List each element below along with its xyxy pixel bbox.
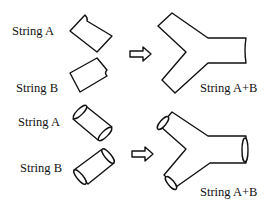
string-a-flat-segment-icon: [70, 15, 112, 52]
combined-flat-y-shape-icon: [158, 13, 246, 93]
string-a-tube-segment-icon: [72, 104, 114, 143]
diagram-graphics: [0, 0, 280, 208]
combined-tube-y-shape-icon: [156, 112, 248, 191]
top-arrow-icon: [130, 47, 151, 61]
diagram-canvas: String A String B String A+B String A St…: [0, 0, 280, 208]
string-b-flat-segment-icon: [70, 58, 107, 92]
string-b-tube-segment-icon: [72, 147, 116, 186]
bottom-arrow-icon: [132, 147, 153, 161]
